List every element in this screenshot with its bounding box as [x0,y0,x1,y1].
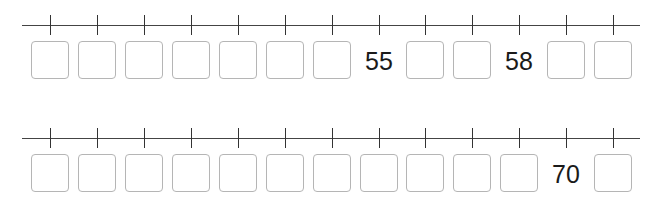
tick-mark [97,15,98,35]
tick-mark [425,128,426,148]
answer-box[interactable] [78,41,116,79]
tick-mark [613,128,614,148]
answer-box[interactable] [219,41,257,79]
answer-box[interactable] [172,41,210,79]
tick-mark [566,128,567,148]
answer-box[interactable] [594,41,632,79]
answer-box[interactable] [125,154,163,192]
tick-mark [97,128,98,148]
tick-mark [238,128,239,148]
tick-mark [191,128,192,148]
tick-mark [50,128,51,148]
answer-box[interactable] [266,41,304,79]
tick-mark [519,15,520,35]
tick-mark [379,128,380,148]
answer-box[interactable] [500,154,538,192]
given-number: 70 [541,155,591,193]
answer-box[interactable] [547,41,585,79]
given-number: 55 [354,42,404,80]
given-number: 58 [494,42,544,80]
tick-mark [472,15,473,35]
answer-box[interactable] [313,154,351,192]
tick-mark [613,15,614,35]
tick-mark [238,15,239,35]
answer-box[interactable] [406,41,444,79]
tick-mark [566,15,567,35]
tick-mark [379,15,380,35]
tick-mark [144,128,145,148]
tick-mark [144,15,145,35]
answer-box[interactable] [31,41,69,79]
answer-box[interactable] [453,41,491,79]
answer-box[interactable] [594,154,632,192]
tick-mark [332,15,333,35]
axis-line [22,25,640,26]
answer-box[interactable] [406,154,444,192]
answer-box[interactable] [219,154,257,192]
answer-box[interactable] [172,154,210,192]
answer-box[interactable] [360,154,398,192]
tick-mark [425,15,426,35]
tick-mark [519,128,520,148]
tick-mark [332,128,333,148]
tick-mark [285,128,286,148]
answer-box[interactable] [313,41,351,79]
number-line-1: 5558 [0,0,658,90]
answer-box[interactable] [78,154,116,192]
tick-mark [50,15,51,35]
answer-box[interactable] [453,154,491,192]
axis-line [22,138,640,139]
number-line-2: 70 [0,105,658,195]
answer-box[interactable] [125,41,163,79]
tick-mark [191,15,192,35]
answer-box[interactable] [266,154,304,192]
answer-box[interactable] [31,154,69,192]
tick-mark [285,15,286,35]
tick-mark [472,128,473,148]
